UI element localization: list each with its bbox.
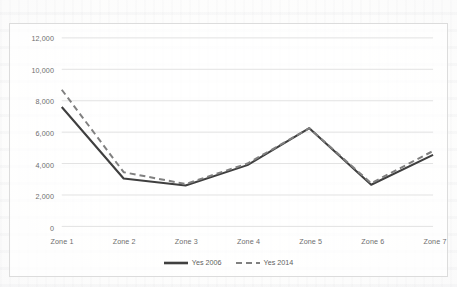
chart-legend: Yes 2006Yes 2014 (10, 258, 447, 267)
series-line-yes-2006 (62, 107, 433, 186)
series-lines-group (62, 90, 433, 186)
y-axis-tick-label: 10,000 (31, 65, 54, 74)
legend-label: Yes 2014 (264, 258, 294, 267)
legend-label: Yes 2006 (192, 258, 222, 267)
y-axis-tick-label: 0 (50, 224, 54, 233)
y-axis-tick-label: 2,000 (36, 192, 55, 201)
y-axis-tick-label: 12,000 (31, 34, 54, 43)
y-axis-tick-label: 6,000 (36, 129, 55, 138)
legend-item-yes-2014[interactable]: Yes 2014 (236, 258, 294, 267)
x-axis-tick-label: Zone 4 (237, 237, 260, 246)
legend-item-yes-2006[interactable]: Yes 2006 (164, 258, 222, 267)
x-axis-tick-label: Zone 7 (424, 237, 447, 246)
line-chart: 02,0004,0006,0008,00010,00012,000 Zone 1… (9, 23, 448, 277)
x-axis-tick-label: Zone 5 (299, 237, 322, 246)
legend-line-swatch-dashed (236, 259, 260, 267)
x-axis-tick-label: Zone 1 (51, 237, 74, 246)
y-axis-tick-label: 8,000 (36, 97, 55, 106)
x-axis-tick-label: Zone 2 (113, 237, 136, 246)
y-axis-tick-label: 4,000 (36, 160, 55, 169)
gridlines-group (62, 38, 433, 227)
legend-line-swatch-solid (164, 259, 188, 267)
x-axis-tick-label: Zone 6 (361, 237, 384, 246)
x-axis-tick-label: Zone 3 (175, 237, 198, 246)
